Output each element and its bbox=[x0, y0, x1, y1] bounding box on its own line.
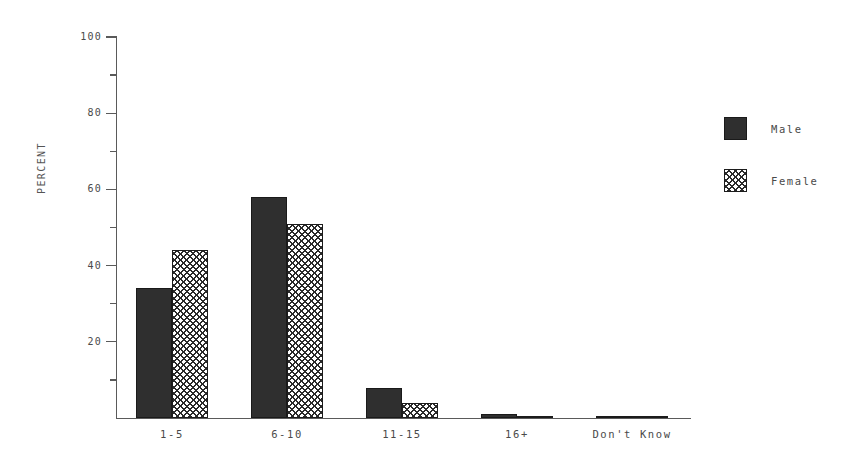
plot-area bbox=[116, 37, 691, 418]
y-tick-label-wrap: 60 bbox=[56, 184, 102, 194]
legend-entry-male: Male bbox=[724, 117, 844, 141]
bar-group bbox=[481, 37, 553, 418]
x-axis-label-1-5: 1-5 bbox=[112, 428, 232, 440]
y-tick-label: 60 bbox=[62, 184, 102, 194]
bar-female-don-t-know bbox=[632, 416, 668, 418]
bar-group bbox=[366, 37, 438, 418]
x-axis-label-don-t-know: Don't Know bbox=[572, 428, 692, 440]
bar-male-don-t-know bbox=[596, 416, 632, 418]
x-axis-label-11-15: 11-15 bbox=[342, 428, 462, 440]
legend-swatch-male-icon bbox=[724, 117, 747, 140]
legend-swatch-female-icon bbox=[724, 169, 747, 192]
bar-female-6-10 bbox=[287, 224, 323, 418]
x-axis-label-16: 16+ bbox=[457, 428, 577, 440]
chart-legend: Male Female bbox=[724, 117, 844, 221]
y-tick-label: 40 bbox=[62, 261, 102, 271]
x-axis-label-6-10: 6-10 bbox=[227, 428, 347, 440]
bar-group bbox=[596, 37, 668, 418]
legend-entry-female: Female bbox=[724, 169, 844, 193]
y-tick-label-wrap: 80 bbox=[56, 108, 102, 118]
y-tick-label-wrap: 20 bbox=[56, 337, 102, 347]
y-tick-label: 20 bbox=[62, 337, 102, 347]
y-axis-label: PERCENT bbox=[34, 178, 50, 194]
bar-female-16 bbox=[517, 416, 553, 418]
x-axis-line bbox=[116, 418, 691, 419]
y-tick-label: 100 bbox=[62, 32, 102, 42]
legend-label-male: Male bbox=[771, 123, 803, 135]
y-tick-label-wrap: 100 bbox=[56, 32, 102, 42]
bar-male-16 bbox=[481, 414, 517, 418]
bar-group bbox=[251, 37, 323, 418]
bar-male-1-5 bbox=[136, 288, 172, 418]
bar-chart-figure: PERCENT 10080604020 1-56-1011-1516+Don't… bbox=[0, 0, 859, 473]
bar-male-6-10 bbox=[251, 197, 287, 418]
y-tick-label-wrap: 40 bbox=[56, 261, 102, 271]
bar-male-11-15 bbox=[366, 388, 402, 418]
legend-label-female: Female bbox=[771, 175, 819, 187]
y-tick-label: 80 bbox=[62, 108, 102, 118]
bar-female-1-5 bbox=[172, 250, 208, 418]
bar-group bbox=[136, 37, 208, 418]
bar-female-11-15 bbox=[402, 403, 438, 418]
